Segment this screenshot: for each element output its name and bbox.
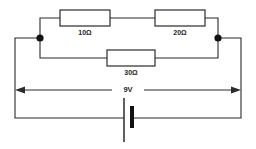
resistor-10ohm-body (60, 10, 110, 26)
resistor-10ohm-label: 10Ω (60, 28, 110, 37)
wire-top-left-riser (40, 18, 60, 38)
source-voltage-label: 9V (112, 85, 144, 94)
circuit-diagram: 10Ω 20Ω 30Ω 9V (0, 0, 256, 149)
battery-long-plate-icon (123, 98, 125, 142)
arrow-left-icon (15, 86, 25, 93)
node-right-dot (214, 34, 221, 41)
resistor-20ohm-label: 20Ω (155, 28, 205, 37)
resistor-30ohm-body (107, 50, 155, 66)
resistor-30ohm-label: 30Ω (107, 68, 155, 77)
wire-middle-left-riser (40, 38, 107, 58)
arrow-right-icon (231, 86, 241, 93)
wire-middle-right-riser (155, 38, 218, 58)
battery-short-plate-icon (130, 106, 134, 128)
resistor-20ohm-body (155, 10, 205, 26)
node-left-dot (36, 34, 43, 41)
